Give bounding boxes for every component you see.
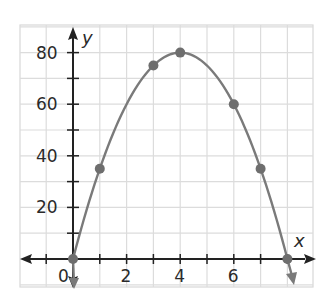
data-point (256, 164, 266, 174)
parabola-chart: 024620406080 y x (0, 0, 324, 293)
data-point (95, 164, 105, 174)
y-tick-label: 20 (36, 197, 58, 217)
x-axis-label: x (293, 230, 305, 251)
y-tick-label: 80 (36, 43, 58, 63)
y-tick-label: 40 (36, 146, 58, 166)
x-tick-label: 6 (228, 266, 239, 286)
data-point (175, 48, 185, 58)
y-tick-label: 60 (36, 94, 58, 114)
x-tick-label: 0 (58, 266, 69, 286)
x-tick-label: 4 (174, 266, 185, 286)
data-point (148, 61, 158, 71)
data-point (68, 254, 78, 264)
x-tick-label: 2 (121, 266, 132, 286)
y-axis-label: y (81, 27, 93, 48)
data-point (282, 254, 292, 264)
data-point (229, 99, 239, 109)
